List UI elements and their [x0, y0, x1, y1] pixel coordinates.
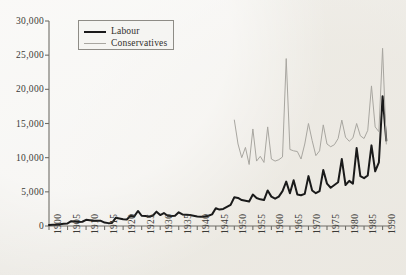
chart-legend: Labour Conservatives [78, 20, 174, 50]
x-axis-tick-label: 1950 [238, 214, 248, 234]
x-axis-tick-label: 1920 [127, 214, 137, 234]
x-axis-tick-label: 1980 [350, 214, 360, 234]
x-axis-tick-label: 1910 [90, 214, 100, 234]
x-axis-tick-label: 1955 [257, 214, 267, 234]
legend-swatch-labour [84, 31, 106, 33]
x-axis-tick-label: 1960 [275, 214, 285, 234]
x-axis-tick-label: 1990 [387, 214, 397, 234]
legend-swatch-conservatives [84, 43, 106, 44]
chart-figure: 05,00010,00015,00020,00025,00030,000 190… [0, 0, 406, 275]
x-axis-tick-label: 1915 [109, 214, 119, 234]
x-axis-tick-label: 1945 [220, 214, 230, 234]
x-axis-tick-label: 1940 [201, 214, 211, 234]
x-axis-tick-label: 1975 [331, 214, 341, 234]
x-axis-tick-label: 1905 [72, 214, 82, 234]
x-axis-tick-label: 1900 [53, 214, 63, 234]
legend-label-labour: Labour [111, 27, 140, 37]
legend-label-conservatives: Conservatives [111, 39, 167, 49]
x-axis-tick-label: 1965 [294, 214, 304, 234]
x-axis-tick-label: 1925 [146, 214, 156, 234]
legend-item-conservatives: Conservatives [84, 37, 167, 50]
x-axis-tick-label: 1935 [183, 214, 193, 234]
x-axis-tick-label: 1985 [368, 214, 378, 234]
x-axis-tick-label: 1930 [164, 214, 174, 234]
x-axis-tick-labels: 1900190519101915192019251930193519401945… [0, 0, 406, 275]
x-axis-tick-label: 1970 [312, 214, 322, 234]
